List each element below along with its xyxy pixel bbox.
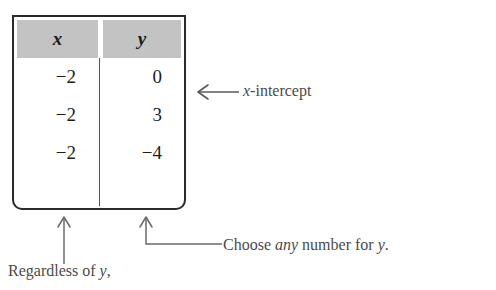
- choose-any-number-label: Choose any number for y.: [223, 236, 389, 254]
- xy-value-table: x y −2 0 −2 3 −2 −4: [12, 15, 186, 210]
- table-header-y: y: [103, 20, 181, 58]
- choose-middle: number for: [298, 236, 378, 253]
- regardless-of-y-label: Regardless of y,: [8, 262, 111, 280]
- table-row: −2 −4: [14, 134, 184, 172]
- table-header-row: x y: [17, 20, 181, 58]
- up-arrow-elbow-icon: [136, 215, 226, 250]
- choose-suffix: .: [385, 236, 389, 253]
- choose-prefix: Choose: [223, 236, 275, 253]
- regardless-suffix: ,: [107, 262, 111, 279]
- regardless-prefix: Regardless of: [8, 262, 100, 279]
- cell-x-2: −2: [14, 134, 76, 172]
- x-intercept-suffix: -intercept: [250, 82, 311, 99]
- cell-y-2: −4: [100, 134, 162, 172]
- table-body: −2 0 −2 3 −2 −4: [14, 58, 184, 208]
- left-arrow-icon: [196, 82, 240, 102]
- choose-variable: y: [378, 236, 385, 253]
- cell-y-0: 0: [100, 58, 162, 96]
- regardless-variable: y: [100, 262, 107, 279]
- cell-x-1: −2: [14, 96, 76, 134]
- table-row: −2 0: [14, 58, 184, 96]
- up-arrow-icon: [54, 215, 74, 265]
- figure-canvas: x y −2 0 −2 3 −2 −4 x-intercept: [0, 0, 496, 290]
- choose-emphasis: any: [275, 236, 298, 253]
- cell-x-0: −2: [14, 58, 76, 96]
- cell-y-1: 3: [100, 96, 162, 134]
- table-row: −2 3: [14, 96, 184, 134]
- x-intercept-label: x-intercept: [243, 82, 311, 100]
- table-header-x: x: [17, 20, 98, 58]
